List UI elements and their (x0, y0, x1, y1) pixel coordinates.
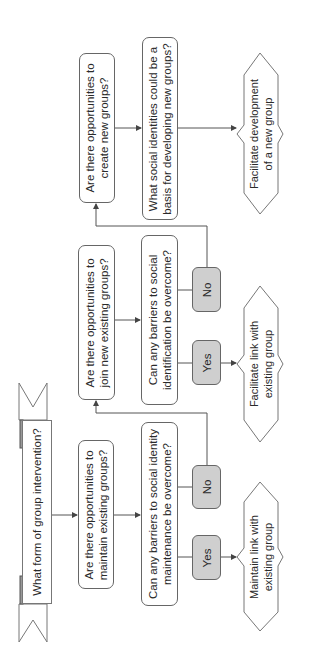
text-line: create new groups? (97, 63, 111, 192)
text-line: Can any barriers to social (146, 250, 160, 390)
start-label: What form of group intervention? (30, 428, 44, 595)
maintain-no-choice: No (192, 465, 221, 509)
join-barrier-question: Can any barriers to socialidentification… (141, 235, 178, 405)
create-basis-question: What social identities could be abasis f… (142, 37, 178, 220)
text-line: maintain existing groups? (96, 449, 110, 579)
text-line: existing group (261, 515, 275, 599)
join-no-choice: No (192, 267, 221, 312)
maintain-yes-choice: Yes (192, 535, 221, 580)
no-label: No (200, 480, 214, 495)
text-line: maintenance be overcome? (160, 429, 174, 599)
text-line: Are there opportunities to (83, 63, 97, 192)
maintain-barrier-question: Can any barriers to social identitymaint… (141, 422, 178, 606)
text-line: Are there opportunities to (83, 258, 97, 387)
maintain-question: Are there opportunities tomaintain exist… (78, 440, 114, 589)
text-line: existing group (261, 321, 275, 407)
maintain-outcome: Maintain link withexisting group (244, 502, 278, 612)
text-line: Are there opportunities to (82, 449, 96, 579)
text-line: Facilitate link with (247, 321, 261, 407)
create-question: Are there opportunities tocreate new gro… (79, 53, 115, 203)
yes-label: Yes (200, 353, 214, 372)
join-outcome: Facilitate link withexisting group (244, 308, 278, 420)
text-line: of a new group (261, 79, 275, 189)
start-node: What form of group intervention? (22, 420, 52, 604)
text-line: Facilitate development (247, 79, 261, 189)
create-outcome: Facilitate developmentof a new group (244, 75, 278, 193)
text-line: basis for developing new groups? (160, 43, 174, 214)
text-line: join new existing groups? (97, 258, 111, 387)
text-line: What social identities could be a (146, 43, 160, 214)
join-question: Are there opportunities tojoin new exist… (78, 245, 115, 400)
no-label: No (200, 282, 214, 297)
text-line: identification be overcome? (160, 250, 174, 390)
text-line: Maintain link with (247, 515, 261, 599)
text-line: Can any barriers to social identity (146, 429, 160, 599)
join-yes-choice: Yes (192, 340, 221, 385)
yes-label: Yes (200, 548, 214, 567)
